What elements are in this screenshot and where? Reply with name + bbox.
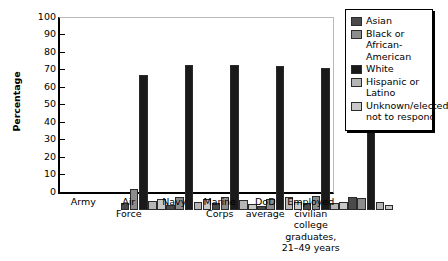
legend-label: Hispanic or Latino bbox=[366, 76, 428, 99]
bar bbox=[321, 68, 330, 209]
legend-swatch bbox=[351, 78, 362, 87]
y-tick-mark bbox=[58, 157, 65, 158]
y-axis-tick-labels: 1009080706050403020100 bbox=[18, 11, 56, 188]
legend-swatch bbox=[351, 102, 362, 111]
bar-group bbox=[257, 35, 303, 210]
y-tick-label: 70 bbox=[18, 63, 56, 75]
y-tick-label: 0 bbox=[18, 186, 56, 198]
y-tick-mark bbox=[58, 52, 65, 53]
y-tick-mark bbox=[58, 69, 65, 70]
y-tick-label: 30 bbox=[18, 133, 56, 145]
legend-label: White bbox=[366, 63, 394, 75]
legend-swatch bbox=[351, 65, 362, 74]
bar bbox=[348, 197, 357, 209]
legend-item: Unknown/elected not to respond bbox=[351, 100, 428, 123]
bar bbox=[276, 66, 285, 209]
y-tick-mark bbox=[58, 122, 65, 123]
y-tick-label: 20 bbox=[18, 151, 56, 163]
y-tick-mark bbox=[58, 87, 65, 88]
legend-item: Black or African-American bbox=[351, 28, 428, 63]
legend-label: Black or African-American bbox=[366, 28, 428, 63]
plot-area bbox=[58, 17, 334, 194]
bar-group bbox=[212, 35, 258, 210]
bar bbox=[357, 198, 366, 209]
chart-legend: AsianBlack or African-AmericanWhiteHispa… bbox=[345, 9, 433, 131]
bar bbox=[139, 75, 148, 209]
legend-swatch bbox=[351, 17, 362, 26]
legend-swatch bbox=[351, 30, 362, 39]
y-tick-label: 10 bbox=[18, 168, 56, 180]
y-tick-mark bbox=[58, 104, 65, 105]
y-tick-mark bbox=[58, 34, 65, 35]
bar bbox=[230, 65, 239, 210]
bar bbox=[385, 205, 394, 209]
bar-group bbox=[121, 35, 167, 210]
y-tick-label: 100 bbox=[18, 11, 56, 23]
y-tick-mark bbox=[58, 174, 65, 175]
bar bbox=[376, 202, 385, 210]
legend-item: Hispanic or Latino bbox=[351, 76, 428, 99]
legend-label: Asian bbox=[366, 15, 392, 27]
y-tick-label: 80 bbox=[18, 46, 56, 58]
x-tick-label: Employedciviliancollegegraduates,21–49 y… bbox=[280, 196, 342, 254]
legend-item: Asian bbox=[351, 15, 428, 27]
y-tick-mark bbox=[58, 139, 65, 140]
x-axis-labels: ArmyAirForceNavyMarineCorpsDoDaverageEmp… bbox=[58, 196, 334, 260]
y-tick-label: 50 bbox=[18, 98, 56, 110]
legend-label: Unknown/elected not to respond bbox=[366, 100, 448, 123]
bar-group bbox=[303, 35, 349, 210]
y-tick-label: 40 bbox=[18, 116, 56, 128]
bar-group bbox=[166, 35, 212, 210]
bar bbox=[185, 65, 194, 210]
y-tick-label: 60 bbox=[18, 81, 56, 93]
y-tick-label: 90 bbox=[18, 28, 56, 40]
legend-item: White bbox=[351, 63, 428, 75]
